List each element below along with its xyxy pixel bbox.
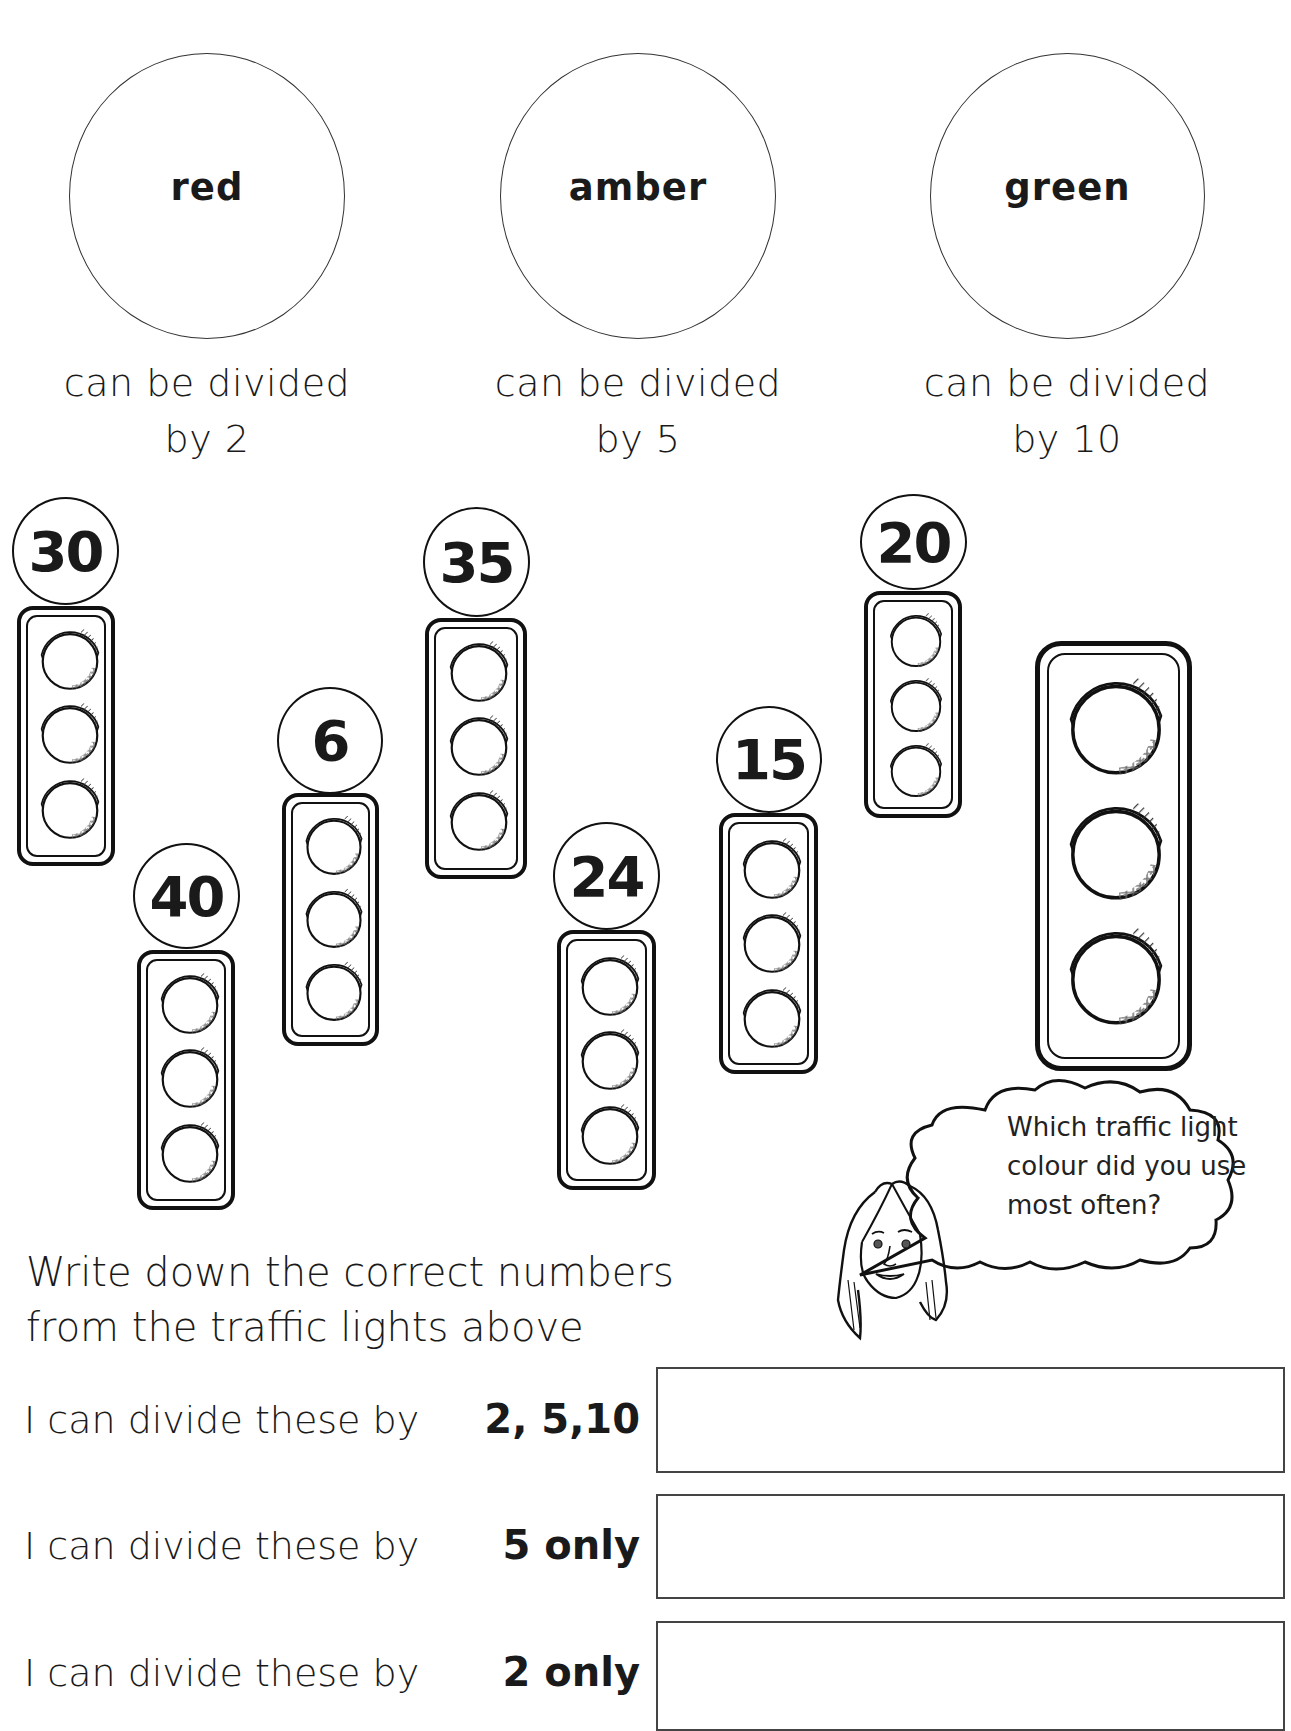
girl-character-icon [820,1170,980,1350]
lamp-green-icon[interactable] [37,769,103,841]
lamp-amber-icon[interactable] [446,706,512,778]
description-line: by 2 [47,411,367,467]
number-badge: 15 [716,706,822,813]
bubble-line: Which traffic light [1007,1108,1246,1147]
instructions-text: Write down the correct numbers from the … [26,1245,674,1355]
description-line: by 5 [478,411,798,467]
number-value: 24 [570,844,644,909]
lamp-amber-icon[interactable] [157,1038,223,1110]
number-badge: 20 [860,494,967,590]
lamp-amber-icon [1064,789,1168,903]
traffic-light-housing [557,930,656,1190]
number-badge: 30 [12,497,119,605]
row-prompt: I can divide these by [24,1398,419,1442]
lamp-red-icon[interactable] [301,807,367,877]
row-divisor: 2 only [450,1649,640,1695]
lamp-red-icon[interactable] [739,829,805,901]
number-value: 6 [312,708,349,773]
lamp-green-icon [1064,914,1168,1028]
number-value: 35 [440,530,514,595]
lamp-green-icon[interactable] [157,1113,223,1185]
lamp-green-icon[interactable] [885,735,947,799]
traffic-light-housing [282,793,379,1046]
row-divisor: 5 only [450,1522,640,1568]
traffic-light-housing [137,950,235,1210]
lamp-red-icon[interactable] [446,632,512,704]
lamp-red-icon[interactable] [37,620,103,692]
instruction-line: Write down the correct numbers [26,1245,674,1300]
number-value: 20 [877,510,951,575]
answer-box-5-only[interactable] [656,1494,1285,1599]
lamp-green-icon[interactable] [577,1095,643,1167]
instruction-line: from the traffic lights above [26,1300,674,1355]
answer-box-2-only[interactable] [656,1621,1285,1731]
category-description-amber: can be divided by 5 [478,355,798,467]
lamp-red-icon[interactable] [157,964,223,1036]
category-circle-green[interactable]: green [930,53,1205,339]
description-line: can be divided [907,355,1227,411]
description-line: by 10 [907,411,1227,467]
number-value: 30 [29,519,103,584]
lamp-amber-icon[interactable] [739,903,805,975]
bubble-line: most often? [1007,1186,1246,1225]
speech-bubble-text: Which traffic light colour did you use m… [1007,1108,1246,1225]
number-badge: 40 [133,843,240,949]
lamp-red-icon [1064,664,1168,778]
category-circle-amber[interactable]: amber [500,53,776,339]
lamp-amber-icon[interactable] [577,1020,643,1092]
category-description-green: can be divided by 10 [907,355,1227,467]
category-description-red: can be divided by 2 [47,355,367,467]
number-value: 15 [732,727,806,792]
lamp-green-icon[interactable] [739,978,805,1050]
description-line: can be divided [478,355,798,411]
number-badge: 24 [553,822,660,930]
traffic-light-housing [17,606,115,866]
lamp-red-icon[interactable] [577,946,643,1018]
description-line: can be divided [47,355,367,411]
category-label-green: green [931,166,1204,209]
category-label-amber: amber [501,166,775,209]
lamp-amber-icon[interactable] [37,694,103,766]
row-prompt: I can divide these by [24,1651,419,1695]
number-badge: 35 [423,507,530,617]
number-value: 40 [150,864,224,929]
lamp-amber-icon[interactable] [301,880,367,950]
lamp-red-icon[interactable] [885,605,947,669]
traffic-light-housing [1035,641,1192,1071]
number-badge: 6 [277,687,383,794]
lamp-green-icon[interactable] [301,953,367,1023]
row-prompt: I can divide these by [24,1524,419,1568]
traffic-light-housing [719,813,818,1074]
category-label-red: red [70,166,344,209]
lamp-amber-icon[interactable] [885,670,947,734]
category-circle-red[interactable]: red [69,53,345,339]
answer-box-2-5-10[interactable] [656,1367,1285,1473]
traffic-light-housing [864,591,962,818]
row-divisor: 2, 5,10 [450,1396,640,1442]
lamp-green-icon[interactable] [446,781,512,853]
bubble-line: colour did you use [1007,1147,1246,1186]
traffic-light-housing [425,618,527,879]
